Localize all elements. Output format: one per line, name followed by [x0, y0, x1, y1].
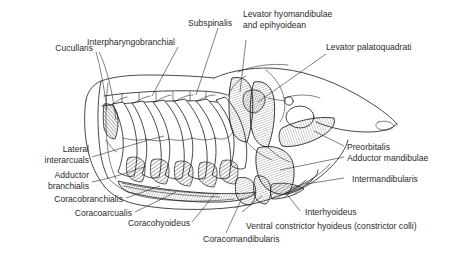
label-coracomandibularis: Coracomandibularis	[203, 234, 279, 244]
label-levator-hyomandibulae-line2: and epihyoidean	[243, 20, 306, 30]
anatomical-figure: Cucullaris Interpharyngobranchial Subspi…	[0, 0, 476, 271]
label-coracohyoideus: Coracohyoideus	[128, 218, 190, 228]
label-levator-hyomandibulae-line1: Levator hyomandibulae	[243, 9, 333, 19]
label-lateral-interarcuals-line1: Lateral	[63, 144, 89, 154]
label-lateral-interarcuals-line2: interarcuals	[45, 155, 89, 165]
label-coracoarcualis: Coracoarcualis	[75, 208, 132, 218]
label-adductor-branchialis-line2: branchialis	[48, 181, 89, 191]
label-interhyoideus: Interhyoideus	[305, 207, 357, 217]
label-preorbitalis: Preorbitalis	[347, 142, 390, 152]
label-interpharyngobranchial: Interpharyngobranchial	[87, 37, 175, 47]
label-adductor-branchialis-line1: Adductor	[55, 170, 90, 180]
label-adductor-mandibulae: Adductor mandibulae	[347, 153, 428, 163]
label-subspinalis: Subspinalis	[188, 18, 232, 28]
label-levator-palatoquadrati: Levator palatoquadrati	[326, 42, 412, 52]
label-coracobranchialis: Coracobranchialis	[54, 194, 123, 204]
label-intermandibularis: Intermandibularis	[352, 174, 418, 184]
label-ventral-constrictor-hyoideus: Ventral constrictor hyoideus (constricto…	[246, 221, 417, 231]
